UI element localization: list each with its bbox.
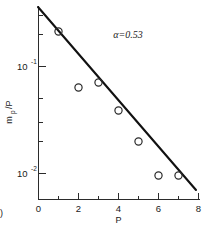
x-axis-title: P [115,215,121,225]
y-tick-label-1e-2-mantissa: 10 [17,168,28,179]
x-tick-label-4: 4 [116,203,121,214]
data-point [75,84,82,91]
x-tick-label-6: 6 [156,203,161,214]
data-point [95,79,102,86]
data-point [175,172,182,179]
y-tick-label-1e-2: 10 -2 [17,165,37,179]
data-points-group [55,28,182,179]
x-tick-labels-group: 0 2 4 6 8 [36,203,201,214]
data-point [135,138,142,145]
y-axis-title-tail: /P [4,100,14,109]
y-tick-labels-group: 10 -1 10 -2 [17,58,37,179]
chart-figure: 0 2 4 6 8 P 10 -1 10 -2 [0,0,205,226]
x-tick-label-2: 2 [76,203,81,214]
alpha-annotation: α=0.53 [113,29,143,40]
y-tick-label-1e-1-exponent: -1 [31,58,37,65]
data-point [115,107,122,114]
y-tick-label-1e-1: 10 -1 [17,58,37,72]
y-axis-title-base: m [4,116,14,124]
y-tick-label-1e-2-exponent: -2 [31,165,37,172]
data-point [155,172,162,179]
y-axis-title: m p /P [4,100,17,123]
x-tick-label-8: 8 [196,203,201,214]
figure-corner-mark: ) [0,208,3,218]
y-axis-title-subscript: p [9,110,17,114]
y-ticks-group [39,16,46,174]
x-ticks-group [39,193,199,200]
y-tick-label-1e-1-mantissa: 10 [17,61,28,72]
scatter-plot-svg: 0 2 4 6 8 P 10 -1 10 -2 [0,0,205,226]
x-tick-label-0: 0 [36,203,41,214]
